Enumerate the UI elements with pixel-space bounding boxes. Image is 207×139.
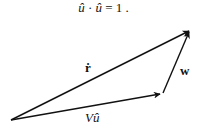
- V-symbol: V: [85, 110, 93, 125]
- V-u-hat-label: Vû: [85, 111, 99, 125]
- r-dot-label: ṙ: [85, 61, 91, 75]
- vector-triangle-diagram: [0, 0, 207, 139]
- w-label: w: [180, 64, 189, 78]
- u-hat-symbol: û: [93, 110, 100, 125]
- r-dot-vector: [11, 31, 189, 120]
